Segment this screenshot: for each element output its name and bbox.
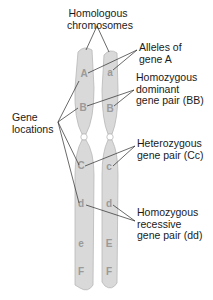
gene-right-F: F bbox=[106, 266, 112, 277]
label-line: Heterozygous bbox=[137, 138, 204, 150]
label-line: locations bbox=[12, 124, 53, 136]
gene-left-F: F bbox=[78, 266, 84, 277]
gene-right-E: E bbox=[106, 238, 113, 249]
gene-right-c: c bbox=[106, 161, 112, 172]
connector-lines bbox=[58, 26, 137, 221]
label-homozygous-dominant: Homozygous dominant gene pair (BB) bbox=[136, 72, 204, 107]
gene-left-B: B bbox=[79, 102, 86, 113]
gene-left-e: e bbox=[78, 238, 84, 249]
label-line: Homologous bbox=[67, 8, 129, 20]
label-line: gene pair (dd) bbox=[137, 230, 202, 242]
label-homologous-chromosomes: Homologous chromosomes bbox=[67, 8, 129, 31]
gene-left-A: A bbox=[80, 68, 87, 79]
label-heterozygous: Heterozygous gene pair (Cc) bbox=[137, 138, 204, 161]
gene-right-B: B bbox=[106, 103, 113, 114]
gene-right-d: d bbox=[106, 198, 112, 209]
label-alleles-of-gene-a: Alleles of gene A bbox=[139, 42, 182, 65]
label-line: Homozygous bbox=[136, 72, 204, 84]
label-homozygous-recessive: Homozygous recessive gene pair (dd) bbox=[137, 207, 202, 242]
label-line: gene pair (Cc) bbox=[137, 150, 204, 162]
gene-right-a: a bbox=[107, 67, 113, 78]
label-line: chromosomes bbox=[67, 20, 129, 32]
label-gene-locations: Gene locations bbox=[12, 112, 53, 135]
label-line: Gene bbox=[12, 112, 53, 124]
label-line: Homozygous bbox=[137, 207, 202, 219]
label-line: gene pair (BB) bbox=[136, 95, 204, 107]
gene-left-C: C bbox=[77, 160, 84, 171]
gene-left-d: d bbox=[78, 198, 84, 209]
label-line: Alleles of bbox=[139, 42, 182, 54]
label-line: gene A bbox=[139, 54, 182, 66]
